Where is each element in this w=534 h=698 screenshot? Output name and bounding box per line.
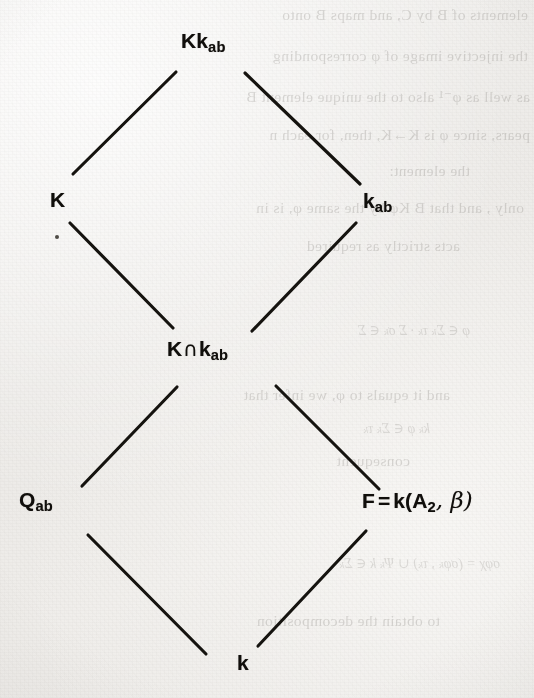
node-Qab-base: Q [19, 488, 35, 511]
equals-sign: = [375, 489, 393, 512]
node-F-rhs-tail: , β) [436, 487, 473, 513]
node-F-rhs-subscript: 2 [427, 499, 435, 515]
ink-speck [55, 235, 59, 239]
node-Qab-subscript: ab [35, 498, 53, 514]
node-F-base: F [362, 489, 375, 512]
edge-Qab-to-Kcapkab [82, 387, 177, 486]
edge-k-to-Qab [88, 535, 206, 654]
node-K-base: K [50, 188, 65, 211]
node-Kkab: Kkab [181, 30, 226, 55]
node-Kkab-base: Kk [181, 29, 208, 52]
node-kab-base: k [363, 189, 375, 212]
node-F-rhs-head: k(A [393, 489, 427, 512]
edge-Kcapkab-to-kab [252, 223, 356, 331]
edge-Kcapkab-to-F [276, 386, 379, 489]
node-k: k [237, 652, 249, 673]
node-Kkab-subscript: ab [208, 39, 226, 55]
node-K: K [50, 189, 65, 210]
hasse-diagram: Kkab K kab K∩kab Qab F=k(A2, β) k [0, 0, 534, 698]
edge-Kcapkab-to-K [70, 223, 173, 328]
node-K-cap-kab: K∩kab [167, 338, 228, 363]
intersection-icon: ∩ [182, 337, 199, 361]
node-k-base: k [237, 651, 249, 674]
node-kab-subscript: ab [375, 199, 393, 215]
edge-k-to-F [258, 531, 366, 646]
node-Qab: Qab [19, 489, 53, 514]
diagram-edges [0, 0, 534, 698]
node-K-cap-kab-left: K [167, 337, 182, 360]
node-K-cap-kab-right: k [199, 337, 211, 360]
node-K-cap-kab-subscript: ab [211, 347, 229, 363]
node-F-equals-kA2beta: F=k(A2, β) [362, 489, 473, 515]
edge-Kkab-to-kab [245, 73, 360, 184]
node-kab: kab [363, 190, 392, 215]
edge-K-to-Kkab [73, 72, 176, 174]
scanned-page: elements of B by C, and maps B onto the … [0, 0, 534, 698]
